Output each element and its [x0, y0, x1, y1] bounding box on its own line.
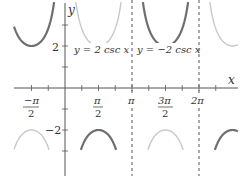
curve-branch	[148, 130, 183, 150]
y-tick-label-neg2: −2	[45, 124, 61, 137]
curve-branch	[210, 2, 238, 46]
curve-branch	[81, 130, 116, 150]
series-label-neg2csc: y = −2 csc x	[136, 44, 201, 55]
curve-branch	[14, 2, 54, 46]
csc-graph: y x 2 −2 −π 2 π 2 π 3π 2 2π y = 2 csc x …	[0, 0, 245, 176]
x-tick-label-pi-2-den: 2	[95, 108, 101, 119]
x-tick-label-3pi-2-num: 3π	[158, 95, 171, 106]
x-tick-label-neg-pi-2-den: 2	[28, 108, 34, 119]
y-axis-label: y	[67, 3, 75, 17]
curve-branch	[14, 130, 49, 150]
curve-branch	[215, 130, 238, 150]
y-tick-label-2: 2	[52, 41, 59, 54]
curve-branch	[143, 2, 188, 46]
series-label-2csc: y = 2 csc x	[73, 44, 129, 55]
x-tick-label-pi-2-num: π	[93, 95, 101, 106]
x-axis-label: x	[228, 73, 235, 87]
x-tick-label-2pi: 2π	[190, 95, 204, 106]
curve-branch	[76, 2, 121, 46]
x-tick-label-3pi-2-den: 2	[162, 108, 168, 119]
x-tick-label-pi: π	[127, 95, 135, 106]
x-tick-label-neg-pi-2-num: −π	[24, 95, 39, 106]
